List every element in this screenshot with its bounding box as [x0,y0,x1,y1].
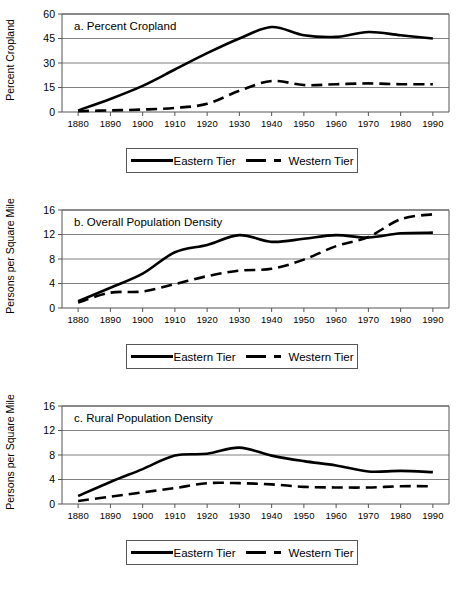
chart-c-legend: Eastern Tier Western Tier [126,540,358,565]
series-line-western-tier [78,81,433,111]
chart-b-svg: 0481216188018901900191019201930194019501… [0,196,468,338]
y-tick-label: 12 [43,424,55,436]
chart-a-svg-wrap: 0153045601880189019001910192019301940195… [0,0,468,142]
x-tick-label: 1980 [390,314,411,325]
dashed-line-icon [246,551,288,554]
y-tick-label: 60 [43,8,55,20]
chart-title: b. Overall Population Density [74,216,223,228]
chart-panel-b: Persons per Square Mile 0481216188018901… [0,196,468,392]
x-tick-label: 1920 [197,510,218,521]
x-tick-label: 1920 [197,314,218,325]
legend-label-western: Western Tier [289,351,354,363]
x-tick-label: 1880 [68,510,89,521]
dashed-line-icon [246,355,288,358]
x-tick-label: 1980 [390,118,411,129]
chart-title: c. Rural Population Density [74,412,213,424]
solid-line-icon [131,355,173,358]
solid-line-icon [131,551,173,554]
x-tick-label: 1910 [164,510,185,521]
chart-c-legend-row: Eastern Tier Western Tier [0,534,468,574]
y-tick-label: 15 [43,81,55,93]
x-tick-label: 1910 [164,314,185,325]
y-tick-label: 12 [43,228,55,240]
x-tick-label: 1910 [164,118,185,129]
x-tick-label: 1960 [326,118,347,129]
legend-label-eastern: Eastern Tier [174,547,246,559]
chart-c-plot-area: Persons per Square Mile 0481216188018901… [0,392,468,534]
x-tick-label: 1930 [229,314,250,325]
x-tick-label: 1940 [261,118,282,129]
x-tick-label: 1920 [197,118,218,129]
legend-item-western: Western Tier [246,351,354,363]
x-tick-label: 1950 [293,510,314,521]
x-tick-label: 1880 [68,118,89,129]
chart-b-plot-area: Persons per Square Mile 0481216188018901… [0,196,468,338]
chart-a-svg: 0153045601880189019001910192019301940195… [0,0,468,142]
dashed-line-icon [246,159,288,162]
legend-label-western: Western Tier [289,155,354,167]
x-tick-label: 1990 [422,118,443,129]
x-tick-label: 1900 [132,314,153,325]
series-line-western-tier [78,483,433,501]
x-tick-label: 1980 [390,510,411,521]
legend-item-western: Western Tier [246,155,354,167]
x-tick-label: 1950 [293,118,314,129]
chart-panel-c: Persons per Square Mile 0481216188018901… [0,392,468,588]
chart-c-svg: 0481216188018901900191019201930194019501… [0,392,468,534]
x-tick-label: 1900 [132,118,153,129]
x-tick-label: 1900 [132,510,153,521]
x-tick-label: 1950 [293,314,314,325]
x-tick-label: 1970 [358,314,379,325]
chart-a-plot-area: Percent Cropland 01530456018801890190019… [0,0,468,142]
chart-panel-a: Percent Cropland 01530456018801890190019… [0,0,468,196]
y-tick-label: 0 [49,498,55,510]
chart-c-svg-wrap: 0481216188018901900191019201930194019501… [0,392,468,534]
legend-item-eastern: Eastern Tier [131,155,246,167]
legend-item-western: Western Tier [246,547,354,559]
chart-b-legend-row: Eastern Tier Western Tier [0,338,468,378]
x-tick-label: 1990 [422,510,443,521]
x-tick-label: 1930 [229,510,250,521]
x-tick-label: 1890 [100,314,121,325]
legend-label-western: Western Tier [289,547,354,559]
y-tick-label: 8 [49,449,55,461]
y-tick-label: 16 [43,400,55,412]
chart-title: a. Percent Cropland [74,20,176,32]
chart-a-legend-row: Eastern Tier Western Tier [0,142,468,182]
x-tick-label: 1940 [261,314,282,325]
x-tick-label: 1960 [326,314,347,325]
x-tick-label: 1880 [68,314,89,325]
x-tick-label: 1960 [326,510,347,521]
y-tick-label: 0 [49,302,55,314]
y-tick-label: 45 [43,32,55,44]
chart-b-svg-wrap: 0481216188018901900191019201930194019501… [0,196,468,338]
x-tick-label: 1940 [261,510,282,521]
y-tick-label: 0 [49,106,55,118]
legend-label-eastern: Eastern Tier [174,351,246,363]
y-tick-label: 4 [49,473,55,485]
y-tick-label: 30 [43,57,55,69]
x-tick-label: 1970 [358,118,379,129]
legend-item-eastern: Eastern Tier [131,547,246,559]
legend-item-eastern: Eastern Tier [131,351,246,363]
chart-a-legend: Eastern Tier Western Tier [126,148,358,173]
x-tick-label: 1970 [358,510,379,521]
x-tick-label: 1890 [100,118,121,129]
x-tick-label: 1890 [100,510,121,521]
y-tick-label: 4 [49,277,55,289]
y-tick-label: 16 [43,204,55,216]
series-line-eastern-tier [78,27,433,110]
figure-root: Percent Cropland 01530456018801890190019… [0,0,468,589]
legend-label-eastern: Eastern Tier [174,155,246,167]
chart-b-legend: Eastern Tier Western Tier [126,344,358,369]
x-tick-label: 1930 [229,118,250,129]
x-tick-label: 1990 [422,314,443,325]
y-tick-label: 8 [49,253,55,265]
solid-line-icon [131,159,173,162]
